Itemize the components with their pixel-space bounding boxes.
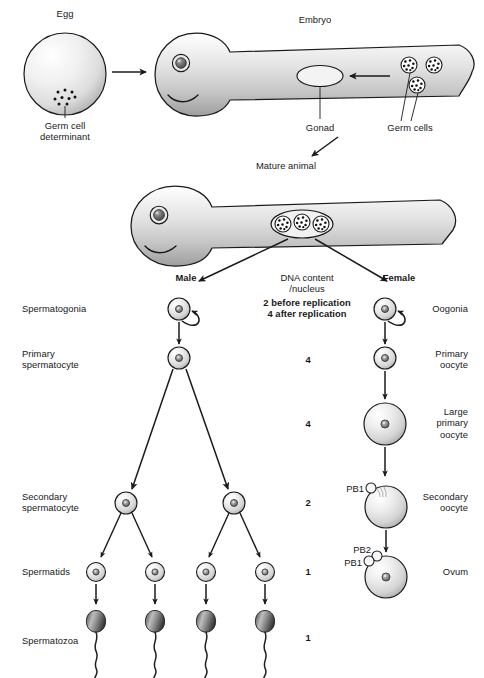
dna-value-large-primary: 4: [305, 418, 310, 429]
spermatozoon: [86, 611, 105, 678]
cell-spermatid: [87, 563, 106, 582]
dna-value-spermatozoa: 1: [305, 632, 310, 643]
egg-cell: [24, 33, 106, 118]
germ-cells-label: Germ cells: [387, 122, 432, 133]
male-lineage: [86, 298, 274, 678]
mature-animal-label: Mature animal: [256, 160, 316, 171]
embryo-label: Embryo: [299, 14, 332, 25]
polar-body-label-pb1-secondary: PB1: [346, 483, 364, 494]
dna-content-heading-line2: /nucleus: [289, 283, 324, 294]
gonad-label: Gonad: [306, 122, 334, 133]
spermatozoon: [255, 611, 274, 678]
dna-note-line2: 4 after replication: [267, 308, 346, 319]
stage-label-spermatogonia: Spermatogonia: [22, 303, 86, 314]
gonad-mature: [271, 210, 333, 238]
stage-label-large-primary-oocyte: Large primary oocyte: [436, 406, 468, 440]
stage-label-spermatids: Spermatids: [22, 566, 70, 577]
cell-spermatid: [146, 563, 165, 582]
cell-large-primary-oocyte: [364, 403, 406, 445]
cell-spermatid: [256, 563, 275, 582]
polar-body-pb1: [364, 556, 374, 566]
gametogenesis-diagram-svg: [0, 0, 484, 678]
male-label: Male: [175, 272, 196, 283]
cell-secondary-oocyte: [365, 483, 407, 528]
germ-cell-determinant-label: Germ cell determinant: [40, 120, 90, 143]
dna-note-line1: 2 before replication: [263, 297, 350, 308]
embryo-body: [155, 33, 474, 121]
polar-body-label-pb1-ovum: PB1: [344, 557, 362, 568]
dna-value-secondary: 2: [305, 497, 310, 508]
spermatozoon: [145, 611, 164, 678]
meiosis1-left-arrow: [132, 369, 173, 489]
mature-animal-body: [131, 186, 456, 281]
stage-label-primary-oocyte: Primary oocyte: [435, 348, 468, 371]
stage-label-secondary-spermatocyte: Secondary spermatocyte: [22, 491, 79, 514]
polar-body-label-pb2: PB2: [353, 544, 371, 555]
female-label: Female: [383, 272, 416, 283]
stage-label-spermatozoa: Spermatozoa: [22, 635, 78, 646]
cell-primary-oocyte: [374, 347, 396, 369]
cell-primary-spermatocyte: [168, 347, 190, 369]
cell-ovum: [364, 551, 407, 598]
stage-label-secondary-oocyte: Secondary oocyte: [423, 491, 468, 514]
cell-secondary-spermatocyte: [223, 492, 245, 514]
polar-body-pb1: [366, 483, 376, 493]
dna-value-spermatid: 1: [305, 566, 310, 577]
diagram-canvas: Egg Germ cell determinant Embryo Gonad G…: [0, 0, 484, 678]
egg-label: Egg: [57, 8, 74, 19]
dna-content-heading-line1: DNA content: [280, 272, 333, 283]
meiosis1-right-arrow: [186, 369, 228, 489]
cell-secondary-spermatocyte: [115, 492, 137, 514]
stage-label-ovum: Ovum: [443, 566, 468, 577]
dna-value-primary: 4: [305, 354, 310, 365]
gonad-embryo: [297, 66, 343, 87]
cell-spermatid: [197, 563, 216, 582]
cell-spermatogonia: [168, 298, 190, 320]
stage-label-oogonia: Oogonia: [432, 303, 468, 314]
cell-oogonia: [374, 298, 396, 320]
spermatozoon: [196, 611, 215, 678]
stage-label-primary-spermatocyte: Primary spermatocyte: [22, 348, 79, 371]
embryo-to-mature-arrow: [312, 137, 338, 156]
